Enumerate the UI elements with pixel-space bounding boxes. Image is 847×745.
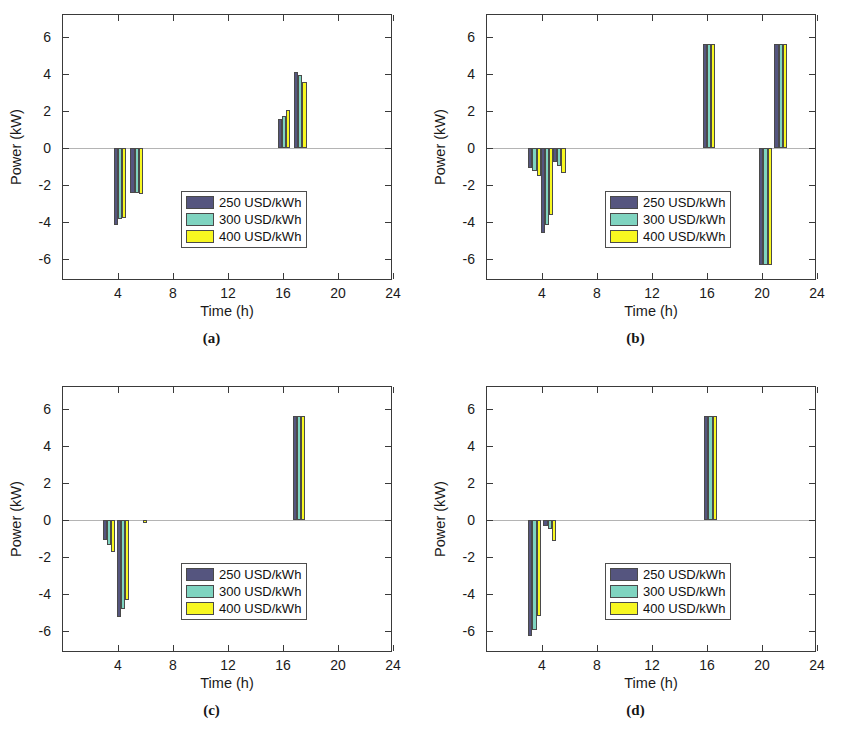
y-tick-mark	[385, 185, 391, 186]
x-tick-label: 8	[593, 658, 601, 672]
x-tick-label: 12	[220, 658, 236, 672]
y-tick-label: -6	[39, 252, 51, 266]
legend-item-label: 300 USD/kWh	[643, 585, 725, 598]
legend-swatch-icon	[610, 213, 638, 226]
y-tick-mark	[63, 111, 69, 112]
x-tick-mark	[652, 273, 653, 279]
caption-text-a: (a)	[203, 330, 221, 346]
y-tick-mark	[809, 520, 815, 521]
legend-item-label: 300 USD/kWh	[219, 213, 301, 226]
x-tick-label: 20	[754, 658, 770, 672]
x-tick-label: 16	[699, 286, 715, 300]
legend-item[interactable]: 250 USD/kWh	[610, 567, 725, 582]
legend-item[interactable]: 250 USD/kWh	[186, 567, 301, 582]
x-tick-label: 12	[644, 286, 660, 300]
legend-swatch-icon	[186, 568, 214, 581]
x-tick-label: 8	[169, 286, 177, 300]
y-tick-mark	[487, 74, 493, 75]
legend-item-label: 250 USD/kWh	[219, 568, 301, 581]
bar	[713, 416, 717, 520]
x-tick-mark	[707, 15, 708, 21]
x-tick-mark	[542, 15, 543, 21]
y-tick-mark	[809, 409, 815, 410]
legend-item-label: 400 USD/kWh	[219, 602, 301, 615]
x-axis-title-a: Time (h)	[62, 303, 392, 319]
y-tick-mark	[63, 409, 69, 410]
y-tick-label: 6	[43, 402, 51, 416]
legend-item[interactable]: 300 USD/kWh	[186, 584, 301, 599]
x-tick-mark	[393, 273, 394, 279]
x-tick-mark	[118, 15, 119, 21]
legend-item[interactable]: 400 USD/kWh	[610, 229, 725, 244]
x-tick-mark	[338, 645, 339, 651]
x-tick-mark	[597, 273, 598, 279]
bar	[537, 520, 541, 616]
legend: 250 USD/kWh300 USD/kWh400 USD/kWh	[605, 563, 731, 620]
y-tick-mark	[487, 557, 493, 558]
y-tick-mark	[809, 37, 815, 38]
legend-item[interactable]: 400 USD/kWh	[610, 601, 725, 616]
y-tick-mark	[385, 148, 391, 149]
x-tick-mark	[652, 645, 653, 651]
x-tick-mark	[118, 273, 119, 279]
legend-item[interactable]: 300 USD/kWh	[186, 212, 301, 227]
y-tick-mark	[63, 37, 69, 38]
legend-item[interactable]: 300 USD/kWh	[610, 584, 725, 599]
y-tick-mark	[385, 520, 391, 521]
y-tick-label: -2	[39, 178, 51, 192]
subplot-caption-d: (d)	[424, 702, 847, 719]
subplot-caption-c: (c)	[0, 702, 423, 719]
y-tick-mark	[809, 74, 815, 75]
bar	[143, 520, 147, 523]
y-axis-title-b: Power (kW)	[432, 77, 448, 217]
x-axis-title-b: Time (h)	[486, 303, 816, 319]
x-tick-label: 24	[385, 286, 401, 300]
y-tick-mark	[487, 111, 493, 112]
y-tick-mark	[385, 409, 391, 410]
legend-item[interactable]: 400 USD/kWh	[186, 601, 301, 616]
y-tick-mark	[385, 37, 391, 38]
x-tick-label: 24	[809, 286, 825, 300]
y-tick-mark	[809, 557, 815, 558]
y-tick-mark	[63, 557, 69, 558]
legend-item[interactable]: 250 USD/kWh	[186, 195, 301, 210]
y-tick-mark	[63, 185, 69, 186]
y-tick-label: -6	[463, 624, 475, 638]
y-tick-label: -6	[39, 624, 51, 638]
y-tick-mark	[487, 594, 493, 595]
x-tick-label: 4	[114, 286, 122, 300]
x-tick-mark	[393, 387, 394, 393]
x-tick-mark	[817, 387, 818, 393]
y-tick-mark	[809, 222, 815, 223]
x-tick-label: 16	[699, 658, 715, 672]
y-tick-mark	[487, 222, 493, 223]
y-tick-label: 2	[43, 476, 51, 490]
y-tick-label: -4	[463, 587, 475, 601]
x-tick-mark	[338, 387, 339, 393]
x-tick-mark	[283, 645, 284, 651]
x-tick-label: 16	[275, 286, 291, 300]
x-tick-mark	[817, 645, 818, 651]
x-axis-title-c: Time (h)	[62, 675, 392, 691]
x-tick-label: 8	[169, 658, 177, 672]
y-tick-label: -2	[463, 178, 475, 192]
y-tick-label: 4	[43, 439, 51, 453]
x-tick-mark	[597, 15, 598, 21]
x-tick-mark	[283, 387, 284, 393]
x-tick-label: 4	[538, 286, 546, 300]
y-tick-mark	[63, 520, 69, 521]
x-tick-mark	[228, 15, 229, 21]
y-tick-mark	[809, 483, 815, 484]
x-tick-label: 12	[220, 286, 236, 300]
legend-item[interactable]: 300 USD/kWh	[610, 212, 725, 227]
bar	[111, 520, 115, 552]
y-tick-mark	[809, 185, 815, 186]
legend-item[interactable]: 400 USD/kWh	[186, 229, 301, 244]
x-tick-mark	[707, 387, 708, 393]
subplot-a: 6420-2-4-64812162024250 USD/kWh300 USD/k…	[0, 0, 423, 372]
legend-item[interactable]: 250 USD/kWh	[610, 195, 725, 210]
y-tick-mark	[385, 557, 391, 558]
x-tick-mark	[118, 387, 119, 393]
subplot-caption-b: (b)	[424, 330, 847, 347]
bar	[711, 44, 715, 148]
